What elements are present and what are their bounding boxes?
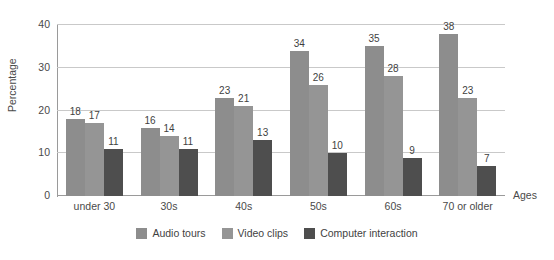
y-tick-label-40: 40 [38,18,50,30]
x-tick-label: under 30 [57,200,132,212]
legend-item[interactable]: Computer interaction [304,227,417,239]
x-axis-title: Ages [513,189,537,201]
bar-value-label: 23 [462,86,473,96]
bar-value-label: 28 [387,64,398,74]
bar[interactable] [365,46,384,196]
x-tick-label: 60s [356,200,431,212]
bar[interactable] [85,123,104,196]
bar-group: 38237 [430,25,505,196]
chart-title [0,0,554,5]
bar-value-label: 11 [108,137,118,147]
y-axis-title: Percentage [6,58,18,112]
bar-value-label: 38 [443,22,454,32]
bar-wrapper: 13 [253,25,272,196]
bar-value-label: 34 [294,39,305,49]
bar-wrapper: 14 [160,25,179,196]
legend-item[interactable]: Audio tours [136,227,205,239]
legend-swatch-icon [304,228,315,239]
bar-value-label: 10 [332,141,343,151]
bar-wrapper: 11 [104,25,123,196]
bar[interactable] [160,136,179,196]
bar-value-label: 17 [89,111,100,121]
bar[interactable] [328,153,347,196]
bar[interactable] [234,106,253,196]
x-tick-label: 50s [281,200,356,212]
bar-value-label: 26 [313,73,324,83]
bar-wrapper: 28 [384,25,403,196]
x-axis-tick-labels: under 3030s40s50s60s70 or older [57,200,505,212]
bar[interactable] [290,51,309,196]
grouped-bar-chart: Percentage Ages 010203040 18171116141123… [0,0,554,260]
bar-group: 342610 [281,25,356,196]
bar-wrapper: 23 [215,25,234,196]
legend-item[interactable]: Video clips [222,227,289,239]
legend-label: Audio tours [152,227,205,239]
x-tick-label: 40s [206,200,281,212]
bar[interactable] [179,149,198,196]
y-tick-label-20: 20 [38,104,50,116]
bar[interactable] [104,149,123,196]
y-tick-label-0: 0 [44,189,50,201]
bar-wrapper: 35 [365,25,384,196]
bar-wrapper: 17 [85,25,104,196]
bar-wrapper: 23 [458,25,477,196]
bar-wrapper: 26 [309,25,328,196]
bar-wrapper: 34 [290,25,309,196]
y-tick-label-10: 10 [38,146,50,158]
bar-wrapper: 21 [234,25,253,196]
bar-value-label: 16 [144,116,155,126]
bar-wrapper: 10 [328,25,347,196]
bar[interactable] [403,158,422,196]
bar-value-label: 23 [219,86,230,96]
bar-value-label: 11 [183,137,193,147]
bar-wrapper: 16 [141,25,160,196]
y-tick-label-30: 30 [38,61,50,73]
bar[interactable] [439,34,458,196]
bar[interactable] [253,140,272,196]
bar[interactable] [477,166,496,196]
bar[interactable] [66,119,85,196]
bar[interactable] [141,128,160,196]
bar-value-label: 35 [368,34,379,44]
chart-legend: Audio toursVideo clipsComputer interacti… [0,227,554,239]
legend-label: Computer interaction [320,227,417,239]
bar[interactable] [215,98,234,196]
bar[interactable] [384,76,403,196]
bar-value-label: 21 [238,94,249,104]
bar-groups: 1817111614112321133426103528938237 [57,25,505,196]
bar-value-label: 9 [409,146,415,156]
bar-group: 161411 [132,25,207,196]
bar[interactable] [309,85,328,196]
bar-wrapper: 18 [66,25,85,196]
bar-value-label: 18 [70,107,81,117]
bar-value-label: 13 [257,128,268,138]
bar-value-label: 7 [484,154,490,164]
bar[interactable] [458,98,477,196]
x-tick-label: 30s [132,200,207,212]
bar-wrapper: 38 [439,25,458,196]
bar-group: 35289 [356,25,431,196]
legend-label: Video clips [238,227,289,239]
legend-swatch-icon [222,228,233,239]
bar-group: 181711 [57,25,132,196]
x-tick-label: 70 or older [430,200,505,212]
bar-wrapper: 9 [403,25,422,196]
legend-swatch-icon [136,228,147,239]
bar-wrapper: 7 [477,25,496,196]
plot-area: 010203040 181711161411232113342610352893… [57,25,505,196]
bar-value-label: 14 [163,124,174,134]
bar-wrapper: 11 [179,25,198,196]
bar-group: 232113 [206,25,281,196]
